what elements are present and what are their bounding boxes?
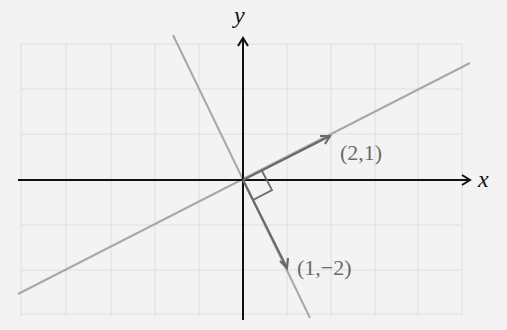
vector-label-2-1: (2,1) (340, 140, 382, 166)
line-slope-neg2 (173, 35, 310, 318)
x-axis-label: x (478, 166, 489, 193)
diagram-canvas (0, 0, 507, 330)
right-angle-marker (253, 171, 272, 200)
vector-label-1-neg2: (1,−2) (297, 255, 352, 281)
y-axis-label: y (234, 2, 245, 29)
